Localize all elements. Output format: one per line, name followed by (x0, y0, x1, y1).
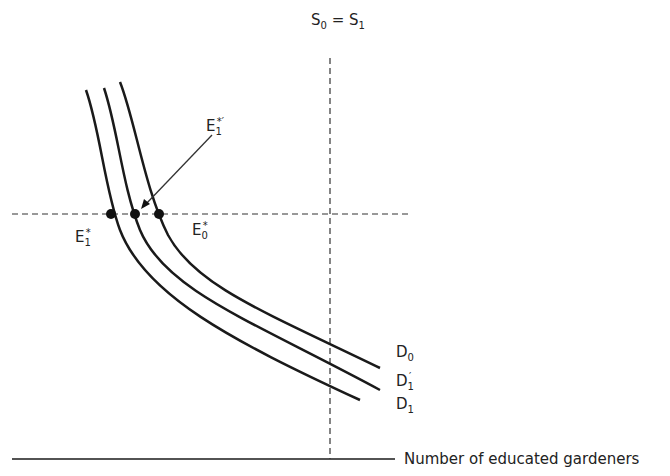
demand-curve-d0 (120, 82, 380, 368)
equilibrium-e0 (154, 209, 164, 219)
x-axis-label: Number of educated gardeners (404, 450, 639, 468)
demand-curve-d1-prime (104, 88, 380, 390)
diagram-canvas (0, 0, 670, 476)
equilibrium-e1-prime (130, 209, 140, 219)
label-d0: D0 (396, 345, 414, 363)
label-d1: D1 (396, 397, 414, 415)
supply-label: S0 = S1 (311, 13, 365, 31)
label-d1-prime: D1′ (396, 372, 411, 392)
annotation-arrow (145, 135, 212, 205)
equilibrium-e1 (106, 209, 116, 219)
label-e1: E1* (75, 228, 91, 248)
label-e0: E0* (192, 221, 208, 241)
label-e1-prime: E1*′ (206, 117, 224, 137)
